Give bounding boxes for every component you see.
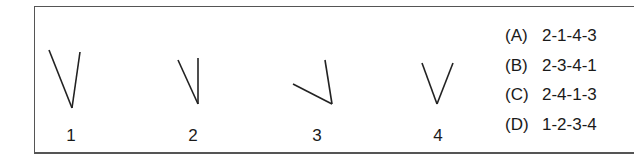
figure-label-1: 1 [61,126,81,146]
answer-options: (A)2-1-4-3 (B)2-3-4-1 (C)2-4-1-3 (D)1-2-… [505,21,597,139]
option-letter: (A) [505,21,542,51]
figure-label-2: 2 [183,126,203,146]
option-answer: 2-4-1-3 [542,85,597,104]
angle-figure-3 [293,60,332,104]
angle-figure-2 [178,58,198,104]
figure-label-3: 3 [307,126,327,146]
option-d[interactable]: (D)1-2-3-4 [505,110,597,140]
option-answer: 2-1-4-3 [542,26,597,45]
angle-figure-4 [422,63,453,104]
option-c[interactable]: (C)2-4-1-3 [505,80,597,110]
option-a[interactable]: (A)2-1-4-3 [505,21,597,51]
option-answer: 2-3-4-1 [542,56,597,75]
option-answer: 1-2-3-4 [542,115,597,134]
angle-figure-1 [49,50,80,108]
option-letter: (C) [505,80,542,110]
option-b[interactable]: (B)2-3-4-1 [505,51,597,81]
option-letter: (B) [505,51,542,81]
option-letter: (D) [505,110,542,140]
figure-label-4: 4 [428,126,448,146]
